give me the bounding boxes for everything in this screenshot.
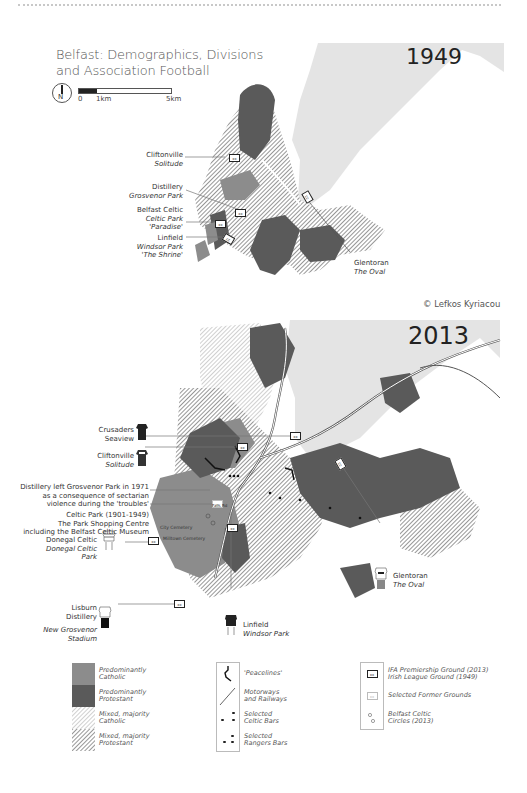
swatch-mixed-protestant — [72, 729, 95, 752]
former-ground-icon: ⚏ — [367, 692, 378, 700]
place-city-cemetery: City Cemetery — [160, 524, 192, 533]
ground-icon: ⚏ — [227, 524, 238, 532]
ground-icon: ⚏ — [174, 600, 185, 608]
ground-icon: ⚏ — [229, 154, 240, 162]
label-lisburn-distillery-2013: Lisburn Distillery New Grosvenor Stadium — [43, 604, 97, 643]
legend-grounds: ⚏ IFA Premiership Ground (2013)Irish Lea… — [360, 663, 488, 729]
label-distillery-1949: Distillery Grosvenor Park — [129, 183, 183, 200]
label-cliftonville-1949: Cliftonville Solitude — [146, 151, 183, 168]
legend-item-mixed-protestant: Mixed, majorityProtestant — [72, 729, 150, 751]
label-crusaders-2013: Crusaders Seaview — [99, 426, 134, 443]
swatch-catholic — [72, 663, 95, 686]
legend-lines: 'Peacelines' Motorwaysand Railways Selec… — [216, 663, 287, 751]
circles-icon — [361, 707, 383, 729]
swatch-protestant — [72, 685, 95, 708]
label-cliftonville-2013: Cliftonville Solitude — [97, 452, 134, 469]
ground-icon: ⚏ — [367, 670, 378, 678]
legend-item-former-grounds: ⚏ Selected Former Grounds — [360, 685, 488, 707]
legend-item-rangers-bars: SelectedRangers Bars — [216, 729, 287, 751]
legend-item-celtic-bars: SelectedCeltic Bars — [216, 707, 287, 729]
legend-item-protestant: PredominantlyProtestant — [72, 685, 150, 707]
ground-icon: ⚏ — [235, 209, 246, 217]
label-glentoran-2013: Glentoran The Oval — [393, 572, 428, 589]
label-linfield-2013: Linfield Windsor Park — [243, 621, 289, 638]
ground-icon: ⚏ — [237, 443, 248, 451]
kit-linfield-icon — [224, 614, 238, 638]
note-celtic-park: Celtic Park (1901-1949) The Park Shoppin… — [23, 511, 149, 537]
legend-item-celtic-circles: Belfast CelticCircles (2013) — [360, 707, 488, 729]
peaceline-icon — [217, 663, 239, 685]
copyright-credit: © Lefkos Kyriacou — [423, 299, 500, 309]
year-label-1949: 1949 — [406, 44, 462, 69]
place-milltown-cemetery: Milltown Cemetery — [163, 535, 205, 544]
label-belfast-celtic-1949: Belfast Celtic Celtic Park 'Paradise' — [137, 206, 183, 232]
kit-cliftonville-icon — [136, 449, 148, 467]
ground-icon: ⚏ — [148, 537, 159, 545]
place-falls-rd: Falls Rd — [212, 502, 227, 511]
note-distillery-left-grosvenor: Distillery left Grosvenor Park in 1971 a… — [20, 483, 149, 509]
label-linfield-1949: Linfield Windsor Park 'The Shrine' — [137, 234, 183, 260]
year-label-2013: 2013 — [408, 322, 469, 350]
motorway-icon — [217, 685, 239, 707]
kit-glentoran-icon — [374, 567, 388, 591]
legend-areas: PredominantlyCatholic PredominantlyProte… — [72, 663, 150, 751]
kit-crusaders-icon — [136, 423, 148, 441]
label-glentoran-1949: Glentoran The Oval — [354, 259, 389, 276]
ground-icon: ⚏ — [215, 220, 226, 228]
legend-item-motorways: Motorwaysand Railways — [216, 685, 287, 707]
legend-item-mixed-catholic: Mixed, majorityCatholic — [72, 707, 150, 729]
legend-item-ifa-ground: ⚏ IFA Premiership Ground (2013)Irish Lea… — [360, 663, 488, 685]
legend-item-peacelines: 'Peacelines' — [216, 663, 287, 685]
rangers-bars-icon — [216, 729, 240, 752]
swatch-mixed-catholic — [72, 707, 95, 730]
label-donegal-celtic-2013: Donegal Celtic Donegal Celtic Park — [46, 536, 97, 562]
legend-item-catholic: PredominantlyCatholic — [72, 663, 150, 685]
celtic-bars-icon — [216, 707, 240, 730]
ground-icon: ⚏ — [290, 432, 301, 440]
kit-lisburn-distillery-icon — [98, 606, 112, 630]
